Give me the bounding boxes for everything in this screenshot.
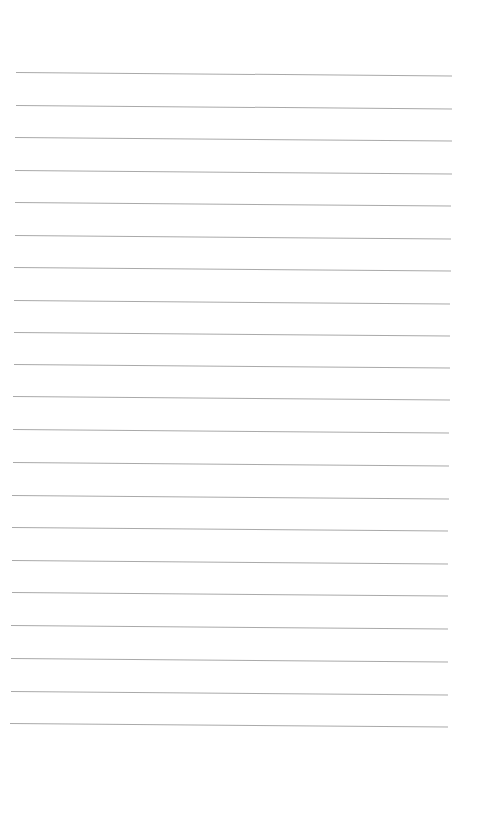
ruled-line (11, 625, 448, 629)
ruled-line (15, 170, 452, 174)
ruled-line (15, 202, 451, 206)
ruled-line (16, 72, 452, 76)
ruled-line (10, 723, 448, 727)
ruled-line (12, 560, 448, 564)
ruled-line (16, 105, 452, 109)
ruled-line (11, 691, 448, 695)
ruled-line (13, 462, 449, 466)
ruled-line (13, 429, 449, 433)
ruled-line (14, 267, 451, 271)
ruled-line (12, 495, 449, 499)
ruled-line (14, 364, 450, 368)
ruled-line (12, 592, 448, 596)
lined-paper-page (0, 0, 488, 817)
ruled-line (11, 658, 448, 662)
ruled-line (15, 235, 451, 239)
ruled-line (12, 527, 448, 531)
ruled-line (15, 137, 452, 141)
ruled-line (14, 332, 450, 336)
ruled-line (14, 300, 450, 304)
ruled-line (13, 396, 450, 400)
